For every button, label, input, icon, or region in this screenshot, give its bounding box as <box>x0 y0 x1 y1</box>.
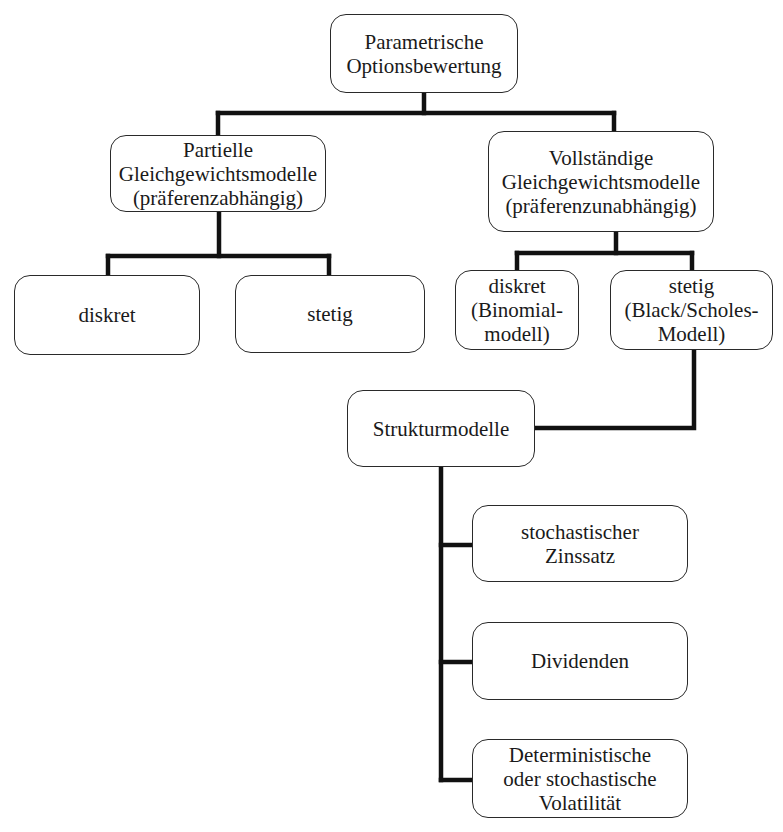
node-structure-models: Strukturmodelle <box>347 390 535 467</box>
node-label: diskret (Binomial- modell) <box>471 274 563 346</box>
node-label: Vollständige Gleichgewichtsmodelle (präf… <box>502 146 700 218</box>
node-label: Partielle Gleichgewichtsmodelle (präfere… <box>119 138 317 210</box>
node-partial-continuous: stetig <box>235 275 425 353</box>
edge-bs-to-structure <box>535 350 694 428</box>
node-partial-equilibrium: Partielle Gleichgewichtsmodelle (präfere… <box>110 135 326 212</box>
node-label: Parametrische Optionsbewertung <box>346 30 501 78</box>
node-stochastic-interest-rate: stochastischer Zinssatz <box>472 505 688 582</box>
node-label: stetig (Black/Scholes- Modell) <box>624 274 758 346</box>
node-partial-discrete: diskret <box>14 275 200 355</box>
node-complete-equilibrium: Vollständige Gleichgewichtsmodelle (präf… <box>488 131 714 232</box>
node-root: Parametrische Optionsbewertung <box>330 14 518 93</box>
node-label: Strukturmodelle <box>373 417 509 441</box>
node-volatility: Deterministische oder stochastische Vola… <box>472 739 688 818</box>
node-binomial-model: diskret (Binomial- modell) <box>455 270 579 350</box>
node-label: stochastischer Zinssatz <box>521 520 639 568</box>
node-label: diskret <box>78 303 135 327</box>
node-label: Deterministische oder stochastische Vola… <box>503 743 656 815</box>
node-black-scholes-model: stetig (Black/Scholes- Modell) <box>610 270 773 350</box>
node-dividends: Dividenden <box>472 622 688 700</box>
options-valuation-diagram: Parametrische Optionsbewertung Partielle… <box>0 0 783 832</box>
node-label: stetig <box>307 302 353 326</box>
node-label: Dividenden <box>531 649 629 673</box>
